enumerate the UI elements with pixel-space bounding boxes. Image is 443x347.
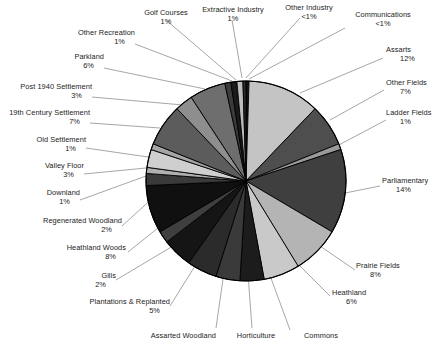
label-heathland-woods-name: Heathland Woods (26, 243, 126, 252)
pie-callout-labels: Golf Courses 1% Extractive Industry 1% O… (0, 0, 443, 347)
label-parliamentary-pct: 14% (382, 185, 442, 194)
label-golf-courses-name: Golf Courses (132, 8, 200, 17)
label-prairie-fields-name: Prairie Fields (356, 261, 420, 270)
label-downland-pct: 1% (24, 197, 80, 206)
label-gills: Gills 2% (68, 271, 116, 290)
label-extractive-industry-name: Extractive Industry (192, 5, 274, 14)
label-parkland-pct: 6% (52, 61, 104, 70)
label-downland-name: Downland (24, 188, 80, 197)
label-other-recreation-name: Other Recreation (55, 28, 135, 37)
label-valley-floor-name: Valley Floor (22, 161, 84, 170)
label-gills-name: Gills (68, 271, 116, 280)
label-parkland-name: Parkland (52, 52, 104, 61)
label-golf-courses-pct: 1% (132, 17, 200, 26)
label-valley-floor-pct: 3% (22, 170, 84, 179)
label-parliamentary-name: Parliamentary (382, 176, 442, 185)
label-commons: Commons (295, 331, 347, 340)
label-commons-name: Commons (295, 331, 347, 340)
label-extractive-industry-pct: 1% (192, 14, 274, 23)
label-downland: Downland 1% (24, 188, 80, 207)
label-communications-pct: <1% (345, 19, 421, 28)
label-ladder-fields-name: Ladder Fields (386, 108, 443, 117)
label-assarts-pct: 12% (386, 54, 442, 63)
label-old-settlement: Old Settlement 1% (14, 135, 86, 154)
label-assarted-woodland: Assarted Woodland (98, 331, 216, 340)
label-heathland-pct: 6% (332, 297, 390, 306)
label-heathland-name: Heathland (332, 288, 390, 297)
label-other-fields: Other Fields 7% (386, 78, 443, 97)
label-horticulture-name: Horticulture (225, 331, 287, 340)
label-parkland: Parkland 6% (52, 52, 104, 71)
label-prairie-fields: Prairie Fields 8% (356, 261, 420, 280)
label-post-1940-settlement-pct: 3% (10, 91, 92, 100)
label-other-fields-pct: 7% (386, 87, 443, 96)
label-other-recreation-pct: 1% (55, 37, 135, 46)
label-ladder-fields-pct: 1% (386, 117, 443, 126)
label-valley-floor: Valley Floor 3% (22, 161, 84, 180)
label-post-1940-settlement: Post 1940 Settlement 3% (10, 82, 92, 101)
label-horticulture: Horticulture (225, 331, 287, 340)
label-plantations-replanted-pct: 5% (52, 306, 170, 315)
label-other-industry-name: Other Industry (276, 3, 342, 12)
label-regenerated-woodland-name: Regenerated Woodland (12, 216, 122, 225)
label-parliamentary: Parliamentary 14% (382, 176, 442, 195)
label-plantations-replanted: Plantations & Replanted 5% (52, 297, 170, 316)
label-extractive-industry: Extractive Industry 1% (192, 5, 274, 24)
label-gills-pct: 2% (68, 280, 116, 289)
label-19th-century-settlement-pct: 7% (0, 117, 90, 126)
label-other-industry: Other Industry <1% (276, 3, 342, 22)
label-prairie-fields-pct: 8% (356, 270, 420, 279)
label-other-fields-name: Other Fields (386, 78, 443, 87)
label-heathland-woods: Heathland Woods 8% (26, 243, 126, 262)
label-regenerated-woodland: Regenerated Woodland 2% (12, 216, 122, 235)
label-communications: Communications <1% (345, 10, 421, 29)
label-post-1940-settlement-name: Post 1940 Settlement (10, 82, 92, 91)
label-assarted-woodland-name: Assarted Woodland (98, 331, 216, 340)
label-assarts: Assarts 12% (386, 45, 442, 64)
label-heathland-woods-pct: 8% (26, 252, 126, 261)
label-plantations-replanted-name: Plantations & Replanted (52, 297, 170, 306)
label-ladder-fields: Ladder Fields 1% (386, 108, 443, 127)
label-19th-century-settlement: 19th Century Settlement 7% (0, 108, 90, 127)
pie-chart-figure: Golf Courses 1% Extractive Industry 1% O… (0, 0, 443, 347)
label-19th-century-settlement-name: 19th Century Settlement (0, 108, 90, 117)
label-old-settlement-name: Old Settlement (14, 135, 86, 144)
label-other-industry-pct: <1% (276, 12, 342, 21)
label-golf-courses: Golf Courses 1% (132, 8, 200, 27)
label-communications-name: Communications (345, 10, 421, 19)
label-heathland: Heathland 6% (332, 288, 390, 307)
label-old-settlement-pct: 1% (14, 144, 86, 153)
label-assarts-name: Assarts (386, 45, 442, 54)
label-other-recreation: Other Recreation 1% (55, 28, 135, 47)
label-regenerated-woodland-pct: 2% (12, 225, 122, 234)
